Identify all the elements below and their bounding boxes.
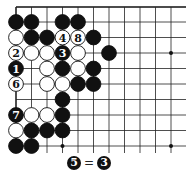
- star-point: [61, 144, 65, 148]
- svg-text:4: 4: [59, 32, 67, 45]
- black-stone: [71, 15, 86, 30]
- svg-text:2: 2: [12, 47, 20, 60]
- caption-black-stone-5: 5: [67, 156, 81, 170]
- white-stone: [9, 30, 24, 45]
- white-stone-move-2: 2: [9, 46, 24, 61]
- black-stone-move-1: 1: [9, 61, 24, 76]
- black-stone: [24, 15, 39, 30]
- white-stone: [24, 46, 39, 61]
- black-stone: [9, 15, 24, 30]
- white-stone: [71, 46, 86, 61]
- black-stone: [55, 61, 70, 76]
- black-stone: [55, 15, 70, 30]
- white-stone-move-6: 6: [9, 77, 24, 92]
- white-stone: [9, 123, 24, 138]
- white-stone: [40, 77, 55, 92]
- black-stone: [40, 123, 55, 138]
- black-stone-move-3: 3: [55, 46, 70, 61]
- caption-black-stone-3: 3: [97, 156, 111, 170]
- svg-text:6: 6: [12, 78, 20, 91]
- white-stone-move-4: 4: [55, 30, 70, 45]
- black-stone: [86, 61, 101, 76]
- white-stone: [40, 61, 55, 76]
- white-stone: [40, 46, 55, 61]
- black-stone: [102, 46, 117, 61]
- white-stone: [71, 61, 86, 76]
- white-stone: [40, 108, 55, 123]
- black-stone-move-7: 7: [9, 108, 24, 123]
- black-stone: [55, 123, 70, 138]
- star-point: [169, 51, 173, 55]
- black-stone: [71, 77, 86, 92]
- black-stone: [55, 108, 70, 123]
- black-stone: [86, 77, 101, 92]
- go-board: 4823167: [0, 0, 186, 156]
- svg-text:8: 8: [74, 32, 82, 45]
- star-point: [169, 144, 173, 148]
- move-caption: 5 = 3: [0, 154, 178, 172]
- svg-text:1: 1: [12, 63, 20, 76]
- white-stone-move-8: 8: [71, 30, 86, 45]
- white-stone: [24, 108, 39, 123]
- black-stone: [55, 92, 70, 107]
- white-stone: [55, 77, 70, 92]
- black-stone: [24, 123, 39, 138]
- black-stone: [86, 30, 101, 45]
- black-stone: [24, 139, 39, 154]
- black-stone: [9, 139, 24, 154]
- black-stone: [24, 30, 39, 45]
- svg-text:7: 7: [12, 109, 20, 122]
- svg-text:3: 3: [59, 47, 67, 60]
- black-stone: [40, 30, 55, 45]
- caption-equals: =: [84, 156, 94, 170]
